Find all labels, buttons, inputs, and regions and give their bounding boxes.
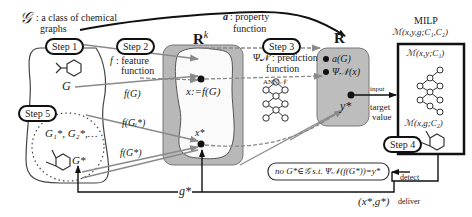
fG-label: f(G): [124, 89, 141, 99]
psi-label: Ψ𝒩(x): [332, 67, 360, 77]
target-space-title: R: [334, 31, 345, 46]
x-def-label: x:=f(G): [186, 86, 220, 97]
milp-m2: ℳ(x,g;C₂): [404, 119, 443, 128]
graph-G-label: G: [62, 80, 71, 92]
detect-label: detect: [400, 174, 419, 182]
x-star-label: x*: [195, 128, 204, 138]
aG-label: a(G): [332, 54, 351, 64]
y-star-label: y*: [340, 100, 351, 112]
milp-m1: ℳ(x,y;C₁): [406, 49, 444, 58]
input-label: input: [370, 86, 384, 93]
deliver-pair-label: (x*,g*): [358, 196, 389, 207]
property-text-2: function: [233, 24, 266, 34]
ann-label: ANN 𝒩: [263, 79, 287, 86]
prediction-text-2: function: [266, 64, 299, 74]
feature-text-2: function: [121, 66, 154, 76]
property-symbol: a: [223, 12, 228, 22]
feature-space-title: Rk: [193, 30, 208, 47]
step-1-badge: Step 1: [45, 38, 84, 55]
class-text-2: graphs: [40, 24, 67, 34]
g-star-label: g*: [178, 185, 192, 197]
step-5-badge: Step 5: [18, 105, 57, 122]
milp-model: ℳ(x,y,g;C₁,C₂): [392, 28, 448, 37]
diagram: 𝒢 : a class of chemical graphs a : prope…: [0, 0, 472, 217]
deliver-label: deliver: [398, 198, 420, 206]
feature-symbol: f: [110, 56, 113, 66]
no-solution-text: no G*∈𝒢 s.t. Ψ𝒩(f(G*))=y*: [275, 167, 380, 176]
Gstar-label: G*: [72, 155, 85, 166]
class-symbol: 𝒢: [20, 10, 31, 26]
step-4-badge: Step 4: [383, 136, 422, 153]
target-label: target: [370, 103, 390, 112]
fGi-label: f(Gᵢ*): [122, 118, 145, 128]
candidate-list-label: G₁*, G₂*,…: [45, 128, 98, 139]
milp-title: MILP: [414, 16, 438, 26]
step-2-badge: Step 2: [116, 38, 155, 55]
prediction-text: : prediction: [272, 53, 318, 63]
class-text: : a class of chemical: [36, 13, 117, 23]
property-text: : property: [230, 12, 269, 22]
prediction-symbol: Ψ𝒩: [253, 53, 270, 63]
fGstar-label: f(G*): [120, 148, 142, 158]
value-label: value: [372, 113, 392, 122]
